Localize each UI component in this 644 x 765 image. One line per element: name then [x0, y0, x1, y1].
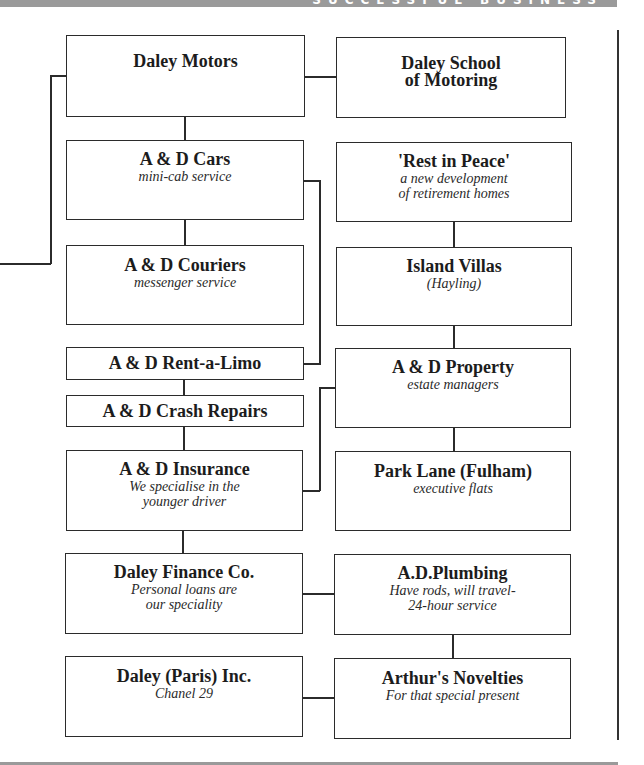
box-title: Island Villas — [337, 257, 571, 276]
connector-motors-cars — [184, 116, 186, 140]
box-subtitle: messenger service — [67, 275, 303, 290]
box-title: A & D Cars — [67, 150, 303, 169]
connector-left-bracket-bottom — [0, 263, 51, 265]
connector-motors-school — [304, 76, 336, 78]
box-subtitle: For that special present — [335, 688, 570, 703]
box-daley-finance: Daley Finance Co. Personal loans are our… — [65, 553, 303, 634]
connector-villas-property — [453, 325, 455, 348]
connector-rip-villas — [453, 221, 455, 247]
box-ad-property: A & D Property estate managers — [335, 348, 571, 428]
box-title: 'Rest in Peace' — [337, 152, 571, 171]
connector-cars-limo-bottom — [303, 363, 320, 365]
box-title: Daley Finance Co. — [66, 563, 302, 582]
connector-insurance-property-bottom — [302, 490, 320, 492]
box-title: Arthur's Novelties — [335, 669, 570, 688]
box-title: A & D Crash Repairs — [67, 402, 303, 421]
box-subtitle: Personal loans are our speciality — [66, 582, 302, 612]
connector-paris-novelties — [302, 697, 335, 699]
box-title: Daley Motors — [67, 52, 304, 71]
connector-cars-limo-top — [303, 180, 320, 182]
right-margin-rule — [617, 30, 619, 740]
connector-insurance-property-top — [319, 387, 336, 389]
connector-cars-limo-vertical — [319, 180, 321, 365]
box-title: A & D Property — [336, 358, 570, 377]
connector-crash-insurance — [183, 426, 185, 450]
box-subtitle: a new development of retirement homes — [337, 171, 571, 201]
box-title: A.D.Plumbing — [335, 564, 570, 583]
box-title: Daley (Paris) Inc. — [66, 667, 302, 686]
connector-insurance-property-vertical — [319, 387, 321, 491]
box-daley-motors: Daley Motors — [66, 35, 305, 117]
header-bar: SUCCESSFUL BUSINESS — [0, 0, 617, 7]
connector-plumbing-novelties — [452, 634, 454, 658]
box-title: A & D Rent-a-Limo — [67, 354, 303, 373]
box-subtitle: Have rods, will travel- 24-hour service — [335, 583, 570, 613]
box-ad-insurance: A & D Insurance We specialise in the you… — [66, 450, 303, 531]
box-subtitle: mini-cab service — [67, 169, 303, 184]
box-subtitle: (Hayling) — [337, 276, 571, 291]
box-subtitle: We specialise in the younger driver — [67, 479, 302, 509]
box-subtitle: Chanel 29 — [66, 686, 302, 701]
header-title-partial: SUCCESSFUL BUSINESS — [312, 0, 603, 7]
connector-insurance-finance — [182, 530, 184, 553]
box-ad-rent-a-limo: A & D Rent-a-Limo — [66, 347, 304, 380]
box-title: A & D Couriers — [67, 256, 303, 275]
box-title: Park Lane (Fulham) — [336, 462, 570, 481]
box-subtitle: executive flats — [336, 481, 570, 496]
box-subtitle: estate managers — [336, 377, 570, 392]
box-title: A & D Insurance — [67, 460, 302, 479]
connector-finance-plumbing — [302, 593, 335, 595]
connector-limo-crash — [183, 379, 185, 395]
box-arthurs-novelties: Arthur's Novelties For that special pres… — [334, 658, 571, 739]
box-ad-plumbing: A.D.Plumbing Have rods, will travel- 24-… — [334, 554, 571, 635]
connector-property-parklane — [453, 427, 455, 451]
box-park-lane: Park Lane (Fulham) executive flats — [335, 451, 571, 531]
connector-left-bracket-top — [50, 75, 67, 77]
box-title: Daley School of Motoring — [337, 55, 565, 89]
box-island-villas: Island Villas (Hayling) — [336, 247, 572, 326]
box-ad-crash-repairs: A & D Crash Repairs — [66, 395, 304, 427]
connector-cars-couriers — [184, 219, 186, 245]
box-ad-couriers: A & D Couriers messenger service — [66, 245, 304, 325]
box-ad-cars: A & D Cars mini-cab service — [66, 140, 304, 220]
box-daley-paris: Daley (Paris) Inc. Chanel 29 — [65, 656, 303, 737]
connector-left-bracket-vertical — [50, 75, 52, 264]
box-daley-school: Daley School of Motoring — [336, 37, 566, 118]
box-rest-in-peace: 'Rest in Peace' a new development of ret… — [336, 142, 572, 222]
